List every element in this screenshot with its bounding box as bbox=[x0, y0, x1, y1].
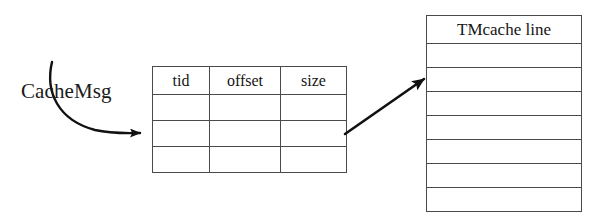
column-header-size: size bbox=[281, 67, 347, 95]
cell-size-row1-hatched bbox=[281, 121, 347, 147]
cachemsg-table-header: tid offset size bbox=[153, 67, 347, 95]
table-row bbox=[153, 95, 347, 121]
table-to-cacheline-arrow bbox=[345, 79, 424, 134]
cache-line-row-hatched bbox=[427, 92, 582, 116]
cachemsg-label: CacheMsg bbox=[21, 79, 112, 103]
cache-line-row bbox=[427, 44, 582, 68]
table-row bbox=[153, 147, 347, 173]
cache-line-slot-1-hatched bbox=[427, 68, 582, 92]
cachemsg-table: tid offset size bbox=[152, 66, 343, 168]
cache-line-slot-2-hatched bbox=[427, 92, 582, 116]
cache-line-row bbox=[427, 188, 582, 212]
cell-tid-row0 bbox=[153, 95, 210, 121]
tmcache-line-title: TMcache line bbox=[427, 16, 582, 44]
column-header-tid: tid bbox=[153, 67, 210, 95]
cache-line-slot-0 bbox=[427, 44, 582, 68]
cachemsg-table-grid: tid offset size bbox=[152, 66, 347, 173]
cell-tid-row2 bbox=[153, 147, 210, 173]
table-row-hatched bbox=[153, 121, 347, 147]
cell-size-row2 bbox=[281, 147, 347, 173]
cell-size-row0 bbox=[281, 95, 347, 121]
cache-line-slot-5 bbox=[427, 164, 582, 188]
diagram-canvas: CacheMsg tid offset size bbox=[0, 0, 611, 220]
table-header-row: tid offset size bbox=[153, 67, 347, 95]
tmcache-line-header: TMcache line bbox=[427, 16, 582, 44]
cache-line-slot-4 bbox=[427, 140, 582, 164]
cache-line-row bbox=[427, 164, 582, 188]
tmcache-line-body bbox=[427, 44, 582, 212]
cell-offset-row1-hatched bbox=[210, 121, 281, 147]
cell-offset-row0 bbox=[210, 95, 281, 121]
cache-line-row-hatched bbox=[427, 116, 582, 140]
tmcache-header-row: TMcache line bbox=[427, 16, 582, 44]
cache-line-row-hatched bbox=[427, 68, 582, 92]
column-header-offset: offset bbox=[210, 67, 281, 95]
cell-offset-row2 bbox=[210, 147, 281, 173]
cache-line-row bbox=[427, 140, 582, 164]
tmcache-line-grid: TMcache line bbox=[426, 15, 582, 212]
tmcache-line-box: TMcache line bbox=[426, 15, 582, 208]
cell-tid-row1-hatched bbox=[153, 121, 210, 147]
cache-line-slot-6 bbox=[427, 188, 582, 212]
cachemsg-table-body bbox=[153, 95, 347, 173]
cache-line-slot-3-hatched bbox=[427, 116, 582, 140]
